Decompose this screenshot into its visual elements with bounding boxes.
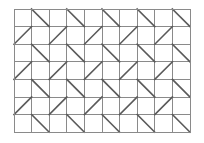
figure-canvas — [0, 0, 204, 143]
tiling-pattern-figure — [0, 0, 204, 143]
